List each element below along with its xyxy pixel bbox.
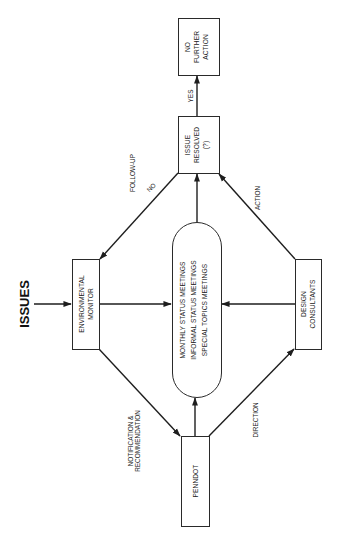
- penndot-label: PENNDOT: [192, 465, 199, 498]
- workflow-diagram: ISSUES NO FURTHER ACTION ISSUE RESOLVED …: [0, 0, 342, 534]
- edge-label-direction: DIRECTION: [252, 402, 259, 438]
- design-consultants-line-2: CONSULTANTS: [309, 279, 316, 329]
- issues-title: ISSUES: [17, 280, 32, 328]
- node-environmental-monitor: ENVIRONMENTAL MONITOR: [73, 260, 100, 350]
- meetings-monthly: MONTHLY STATUS MEETINGS: [179, 261, 186, 359]
- edge-label-notification-2: RECOMMENDATION: [134, 410, 141, 472]
- no-further-action-line-2: FURTHER: [193, 31, 200, 63]
- node-no-further-action: NO FURTHER ACTION: [179, 19, 220, 76]
- issue-resolved-line-3: (?): [202, 141, 210, 149]
- edge-label-follow-up: FOLLOW-UP: [129, 154, 136, 192]
- no-further-action-line-3: ACTION: [202, 34, 209, 60]
- environmental-monitor-line-1: ENVIRONMENTAL: [78, 275, 85, 333]
- edge-label-no: NO: [145, 181, 157, 193]
- meetings-informal: INFORMAL STATUS MEETINGS: [190, 260, 197, 360]
- no-further-action-line-1: NO: [184, 42, 191, 52]
- node-penndot: PENNDOT: [182, 437, 210, 527]
- issue-resolved-line-2: RESOLVED: [193, 127, 200, 163]
- node-issue-resolved: ISSUE RESOLVED (?): [179, 117, 220, 174]
- follow-up-arrow: [100, 173, 178, 259]
- environmental-monitor-line-2: MONITOR: [87, 288, 94, 320]
- node-meetings: MONTHLY STATUS MEETINGS INFORMAL STATUS …: [173, 223, 222, 398]
- edge-label-notification-1: NOTIFICATION &: [127, 415, 134, 466]
- edge-label-action: ACTION: [254, 186, 261, 211]
- edge-label-yes: YES: [187, 90, 194, 103]
- issue-resolved-line-1: ISSUE: [184, 134, 191, 155]
- node-design-consultants: DESIGN CONSULTANTS: [296, 260, 322, 350]
- meetings-special-topics: SPECIAL TOPICS MEETINGS: [201, 263, 208, 356]
- design-consultants-line-1: DESIGN: [300, 291, 307, 317]
